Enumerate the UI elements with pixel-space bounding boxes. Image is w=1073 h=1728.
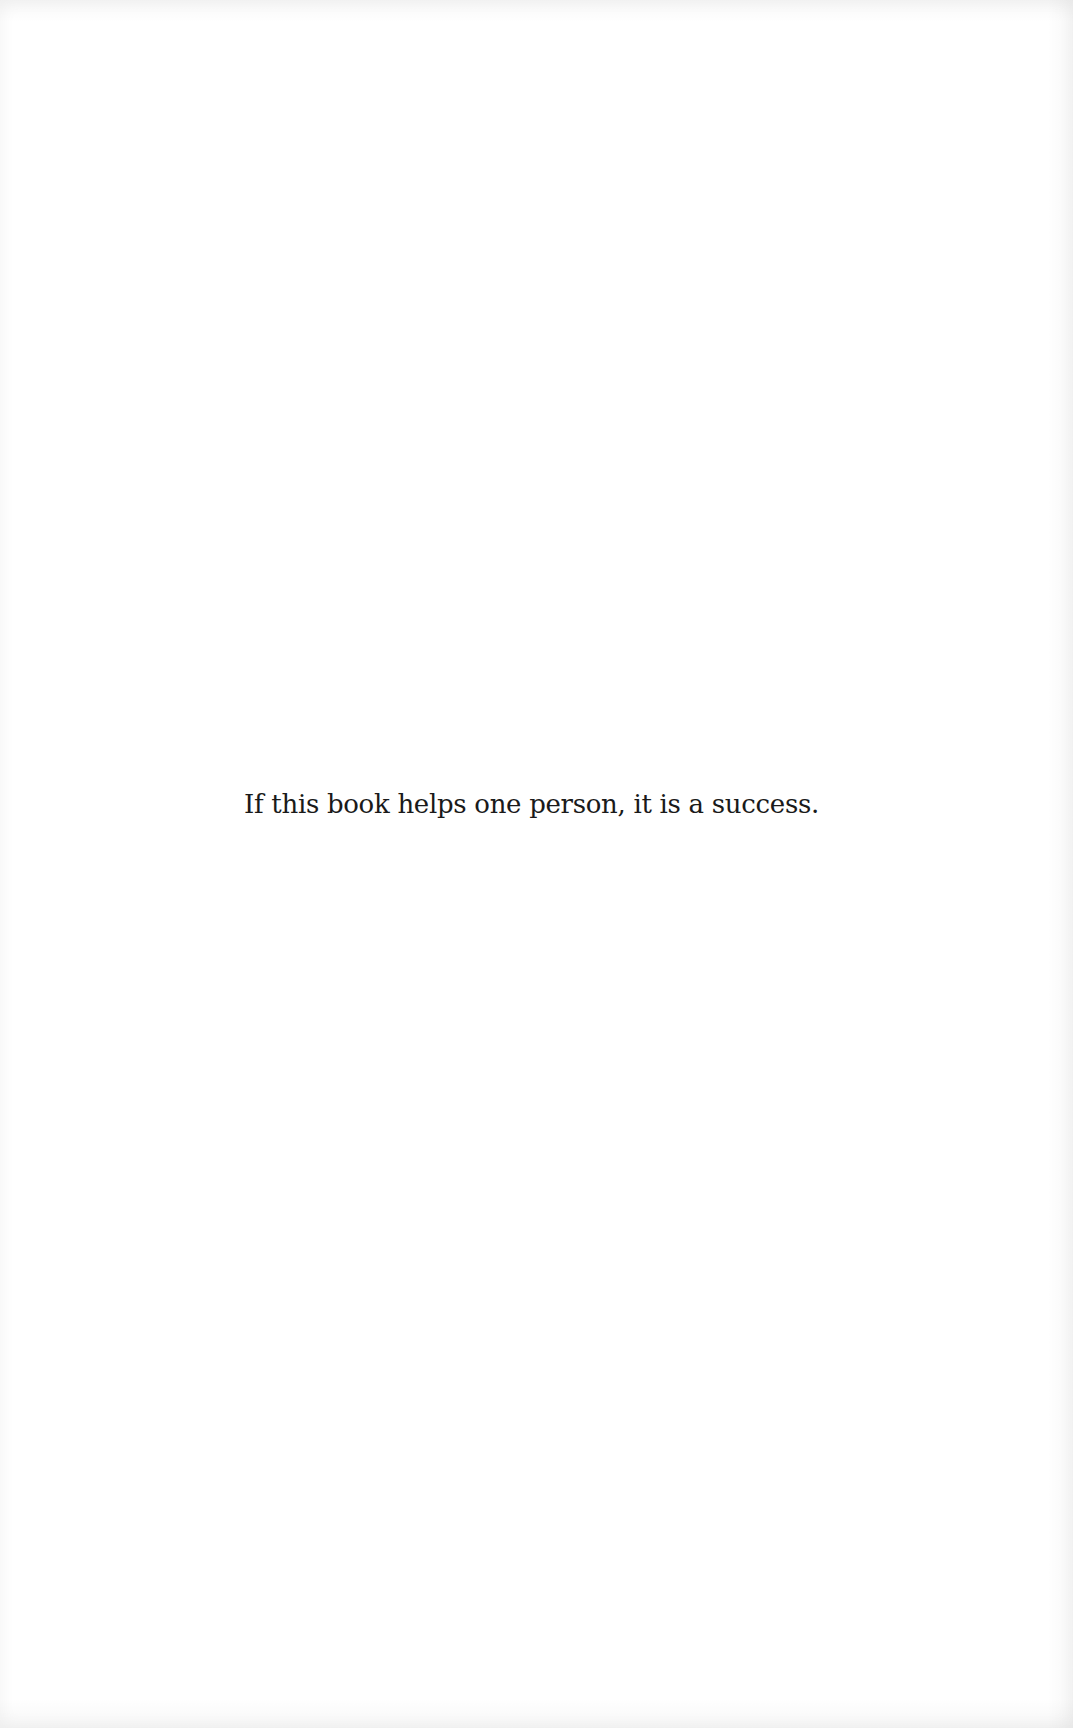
scan-shadow-top <box>0 0 1073 22</box>
book-page: If this book helps one person, it is a s… <box>0 0 1073 1728</box>
scan-shadow-bottom <box>0 1698 1073 1728</box>
scan-shadow-right <box>1047 0 1073 1728</box>
dedication-text: If this book helps one person, it is a s… <box>0 784 1063 824</box>
